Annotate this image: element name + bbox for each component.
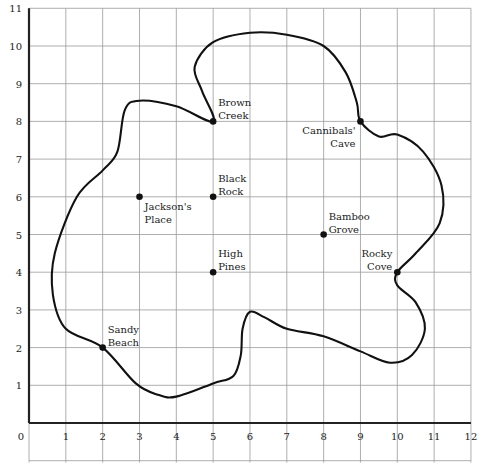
x-tick-label: 3 (136, 431, 142, 442)
x-tick-label: 11 (428, 431, 441, 442)
y-tick-label: 9 (16, 79, 22, 90)
place-label-line: Beach (108, 337, 140, 348)
x-tick-label: 12 (465, 431, 478, 442)
place-label-line: Rocky (361, 248, 392, 259)
location-dot-icon (210, 269, 217, 276)
place-label: BambooGrove (329, 211, 370, 235)
y-tick-label: 6 (16, 192, 22, 203)
location-dot-icon (99, 344, 106, 351)
x-tick-label: 1 (63, 431, 69, 442)
y-tick-label: 8 (16, 116, 22, 127)
x-tick-label: 8 (320, 431, 326, 442)
place-label: SandyBeach (108, 324, 140, 348)
place-bamboo-grove: BambooGrove (320, 211, 370, 238)
y-tick-label: 11 (9, 3, 22, 14)
place-label-line: Creek (218, 110, 249, 121)
x-tick-label: 9 (357, 431, 363, 442)
place-brown-creek: BrownCreek (210, 97, 252, 124)
location-dot-icon (210, 194, 217, 201)
x-tick-label: 10 (391, 431, 404, 442)
place-label: HighPines (218, 248, 245, 272)
location-dot-icon (357, 118, 364, 125)
place-label: RockyCove (361, 248, 392, 272)
place-label-line: Place (144, 214, 171, 225)
location-dot-icon (210, 118, 217, 125)
place-cannibals-cave: Cannibals'Cave (302, 118, 363, 149)
place-label: Cannibals'Cave (302, 125, 355, 149)
place-sandy-beach: SandyBeach (99, 324, 139, 351)
grid-lines (29, 8, 471, 462)
place-label: BlackRock (218, 173, 247, 197)
place-label-line: Sandy (108, 324, 140, 335)
tick-labels: 12345678910111201234567891011 (9, 3, 477, 442)
place-rocky-cove: RockyCove (361, 248, 400, 275)
place-jackson-s-place: Jackson'sPlace (136, 194, 191, 225)
place-label-line: Bamboo (329, 211, 370, 222)
place-black-rock: BlackRock (210, 173, 247, 200)
y-tick-label: 5 (16, 230, 22, 241)
x-tick-label: 7 (284, 431, 290, 442)
x-tick-label: 5 (210, 431, 216, 442)
place-label-line: Cave (330, 138, 355, 149)
place-label-line: Black (218, 173, 247, 184)
island-map: 12345678910111201234567891011 BrownCreek… (0, 0, 483, 470)
place-label: BrownCreek (218, 97, 252, 121)
place-label: Jackson'sPlace (143, 201, 191, 225)
y-tick-label: 7 (16, 154, 22, 165)
y-tick-label: 3 (16, 305, 22, 316)
y-tick-label: 10 (9, 41, 22, 52)
origin-label: 0 (18, 431, 24, 442)
place-label-line: Brown (218, 97, 252, 108)
location-dot-icon (394, 269, 401, 276)
place-high-pines: HighPines (210, 248, 246, 275)
x-tick-label: 4 (173, 431, 179, 442)
place-label-line: Grove (329, 224, 359, 235)
location-dot-icon (320, 231, 327, 238)
place-label-line: Cannibals' (302, 125, 355, 136)
y-tick-label: 2 (16, 343, 22, 354)
place-label-line: Jackson's (143, 201, 191, 212)
location-dot-icon (136, 194, 143, 201)
place-label-line: Cove (367, 261, 392, 272)
x-tick-label: 6 (247, 431, 253, 442)
place-label-line: Rock (218, 186, 244, 197)
place-label-line: Pines (218, 261, 245, 272)
y-tick-label: 4 (16, 267, 22, 278)
y-tick-label: 1 (16, 380, 22, 391)
x-tick-label: 2 (99, 431, 105, 442)
place-label-line: High (218, 248, 243, 259)
